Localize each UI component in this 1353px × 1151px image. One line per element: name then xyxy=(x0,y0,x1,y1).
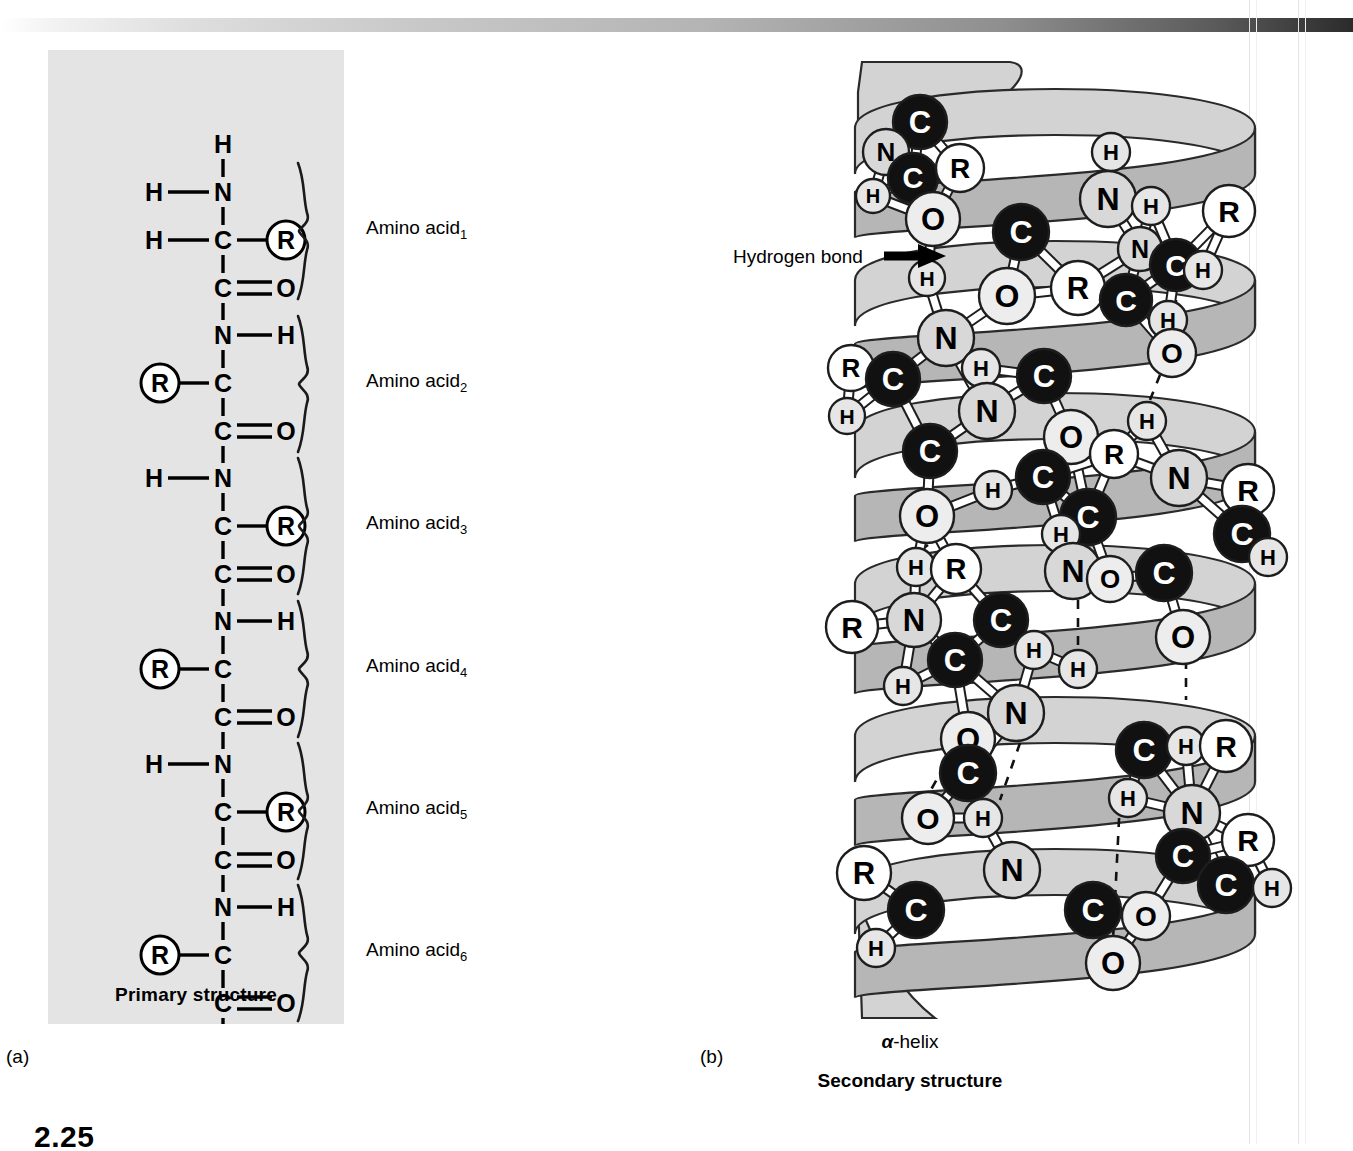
atom-n: N xyxy=(959,383,1015,439)
svg-text:O: O xyxy=(995,278,1020,314)
svg-text:R: R xyxy=(1215,730,1237,763)
svg-text:H: H xyxy=(839,405,854,428)
svg-text:C: C xyxy=(1009,214,1032,250)
svg-text:R: R xyxy=(1237,824,1259,857)
svg-text:H: H xyxy=(1139,409,1155,434)
atom-h: H xyxy=(1015,631,1053,669)
svg-text:R: R xyxy=(946,553,967,585)
svg-text:H: H xyxy=(1120,786,1136,811)
svg-text:C: C xyxy=(1132,732,1155,768)
atom-n: N xyxy=(887,593,941,647)
atom-o: O xyxy=(1148,329,1196,377)
svg-text:H: H xyxy=(1264,876,1280,901)
atom-h: H xyxy=(1092,133,1130,171)
svg-text:O: O xyxy=(1171,620,1195,655)
atom-h: H xyxy=(1109,779,1147,817)
svg-text:C: C xyxy=(1152,555,1175,591)
atom-r: R xyxy=(1051,261,1105,315)
svg-text:C: C xyxy=(1033,359,1055,394)
svg-text:O: O xyxy=(1161,338,1183,369)
atom-c: C xyxy=(866,352,920,406)
svg-text:R: R xyxy=(842,353,861,383)
atom-r: R xyxy=(826,601,878,653)
svg-text:C: C xyxy=(904,892,927,928)
svg-text:H: H xyxy=(1103,140,1119,165)
atom-c: C xyxy=(1198,857,1254,913)
svg-text:C: C xyxy=(909,105,931,140)
svg-text:O: O xyxy=(915,499,939,534)
svg-text:C: C xyxy=(956,755,979,791)
svg-text:H: H xyxy=(919,267,934,290)
atom-r: R xyxy=(936,144,984,192)
atom-n: N xyxy=(988,685,1044,741)
svg-text:N: N xyxy=(1096,181,1119,217)
atom-n: N xyxy=(1080,171,1136,227)
atom-h: H xyxy=(964,799,1002,837)
svg-text:H: H xyxy=(1178,734,1194,759)
atom-h: H xyxy=(1184,251,1222,289)
atom-o: O xyxy=(1122,892,1170,940)
svg-text:C: C xyxy=(1214,867,1237,903)
atom-h: H xyxy=(829,398,865,434)
svg-text:N: N xyxy=(903,603,925,638)
svg-text:N: N xyxy=(1180,795,1203,831)
svg-text:H: H xyxy=(1195,258,1211,283)
atom-c: C xyxy=(1016,450,1070,504)
atom-h: H xyxy=(856,179,890,213)
atom-n: N xyxy=(984,842,1040,898)
svg-text:R: R xyxy=(841,611,863,644)
svg-text:R: R xyxy=(950,153,970,184)
atom-o: O xyxy=(906,192,960,246)
svg-text:H: H xyxy=(1026,638,1042,663)
atom-n: N xyxy=(1151,450,1207,506)
svg-text:O: O xyxy=(1059,420,1083,455)
atom-h: H xyxy=(1128,402,1166,440)
svg-text:N: N xyxy=(975,393,998,429)
svg-text:O: O xyxy=(916,802,939,835)
atom-r: R xyxy=(1203,185,1255,237)
svg-text:H: H xyxy=(908,555,924,580)
svg-text:N: N xyxy=(1167,460,1190,496)
atom-c: C xyxy=(903,424,957,478)
atom-c: C xyxy=(928,633,982,687)
atom-c: C xyxy=(1065,882,1121,938)
svg-text:O: O xyxy=(921,202,945,237)
atom-h: H xyxy=(884,667,922,705)
atom-c: C xyxy=(1136,545,1192,601)
atom-h: H xyxy=(897,548,935,586)
svg-text:R: R xyxy=(1237,474,1259,507)
svg-text:C: C xyxy=(919,434,941,469)
svg-text:R: R xyxy=(1104,439,1124,470)
svg-text:C: C xyxy=(1172,839,1194,874)
atom-h: H xyxy=(1059,650,1097,688)
atom-o: O xyxy=(979,268,1035,324)
atom-h: H xyxy=(857,929,895,967)
figure-number: 2.25 xyxy=(34,1120,94,1151)
atom-h: H xyxy=(1253,869,1291,907)
helix-name-label: α-helix xyxy=(750,1031,1070,1053)
svg-text:C: C xyxy=(1230,516,1253,552)
svg-text:N: N xyxy=(1004,695,1027,731)
svg-text:H: H xyxy=(895,674,911,699)
svg-text:O: O xyxy=(1101,946,1125,981)
atom-r: R xyxy=(1090,430,1138,478)
svg-text:C: C xyxy=(903,162,924,194)
svg-text:N: N xyxy=(1000,852,1023,888)
atom-o: O xyxy=(1086,936,1140,990)
atom-r: R xyxy=(1200,720,1252,772)
secondary-structure-title: Secondary structure xyxy=(750,1070,1070,1092)
svg-text:N: N xyxy=(1131,235,1149,263)
svg-text:C: C xyxy=(1115,284,1137,317)
svg-text:H: H xyxy=(973,356,989,381)
svg-text:C: C xyxy=(1032,460,1054,495)
helix-name-rest: -helix xyxy=(893,1031,938,1052)
atom-o: O xyxy=(1087,556,1133,602)
svg-text:N: N xyxy=(934,320,957,356)
atom-h: H xyxy=(974,471,1012,509)
svg-text:R: R xyxy=(1218,195,1240,228)
svg-text:H: H xyxy=(985,478,1001,503)
svg-text:R: R xyxy=(1067,271,1089,306)
svg-text:H: H xyxy=(868,936,884,961)
svg-text:C: C xyxy=(1081,892,1104,928)
